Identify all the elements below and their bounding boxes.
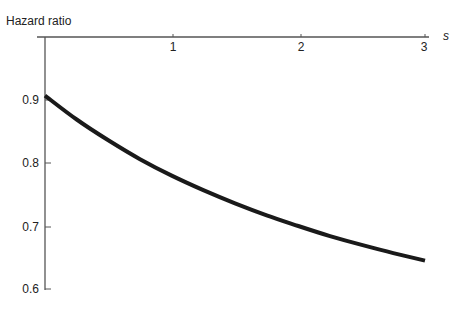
x-tick-label: 2 [298,40,305,54]
y-tick-label: 0.7 [22,220,39,234]
x-tick-label: 1 [170,40,177,54]
hazard-ratio-curve [45,96,425,261]
y-tick-label: 0.6 [22,282,39,296]
y-tick-label: 0.9 [22,93,39,107]
x-tick-label: 3 [421,40,428,54]
chart-plot: 1 2 3 s 0.9 0.8 0.7 0.6 [0,0,466,312]
y-tick-label: 0.8 [22,156,39,170]
x-axis-label: s [443,29,449,43]
